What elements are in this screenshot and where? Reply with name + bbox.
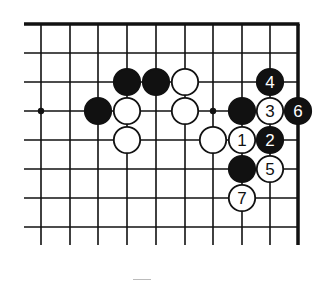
black-stone-move-6: 6 — [285, 98, 311, 124]
stone-disc — [229, 98, 255, 124]
white-stone — [114, 98, 140, 124]
black-stone — [143, 69, 169, 95]
white-stone — [200, 127, 226, 153]
white-stone-move-3: 3 — [257, 98, 283, 124]
stone-disc — [172, 69, 198, 95]
caption-mark — [133, 279, 151, 280]
stone-disc — [114, 98, 140, 124]
move-number: 7 — [237, 189, 246, 208]
stone-disc — [172, 98, 198, 124]
black-stone-move-2: 2 — [257, 127, 283, 153]
stone-disc — [143, 69, 169, 95]
go-board: 4361257 — [0, 0, 325, 281]
white-stone-move-1: 1 — [229, 127, 255, 153]
black-stone — [229, 98, 255, 124]
white-stone-move-5: 5 — [257, 156, 283, 182]
black-stone — [229, 156, 255, 182]
move-number: 2 — [265, 131, 274, 150]
stone-disc — [85, 98, 111, 124]
white-stone-move-7: 7 — [229, 185, 255, 211]
hoshi-point — [38, 108, 44, 114]
move-number: 6 — [293, 102, 302, 121]
move-number: 3 — [265, 102, 274, 121]
black-stone — [85, 98, 111, 124]
stone-disc — [114, 69, 140, 95]
white-stone — [114, 127, 140, 153]
black-stone — [114, 69, 140, 95]
white-stone — [172, 98, 198, 124]
move-number: 1 — [237, 131, 246, 150]
stone-disc — [229, 156, 255, 182]
stone-disc — [114, 127, 140, 153]
move-number: 4 — [265, 73, 274, 92]
black-stone-move-4: 4 — [257, 69, 283, 95]
white-stone — [172, 69, 198, 95]
stone-disc — [200, 127, 226, 153]
hoshi-point — [210, 108, 216, 114]
move-number: 5 — [265, 160, 274, 179]
